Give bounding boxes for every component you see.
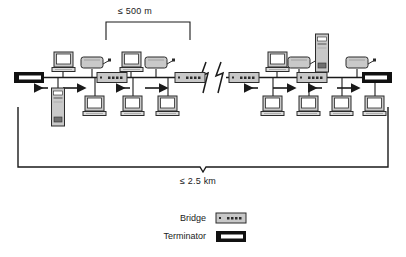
server-tower-right [316, 34, 329, 72]
bridge-4 [297, 73, 327, 83]
computer-top-3 [266, 52, 289, 72]
network-diagram: ≤ 500 m ≤ 2.5 km Bridge Terminator [0, 0, 406, 257]
computer-bottom-1 [83, 96, 106, 116]
server-tower-left [52, 88, 65, 126]
legend-terminator-icon [216, 231, 246, 242]
computer-bottom-7 [363, 96, 386, 116]
computer-bottom-5 [297, 96, 320, 116]
computer-bottom-2 [121, 96, 144, 116]
bridge-2 [175, 73, 205, 83]
total-length-bracket [18, 107, 388, 172]
bridge-3 [229, 73, 259, 83]
segment-length-label: ≤ 500 m [118, 6, 152, 16]
computer-top-1 [52, 52, 75, 72]
segment-length-bracket [106, 22, 190, 40]
computer-bottom-3 [156, 96, 179, 116]
bridge-1 [97, 73, 127, 83]
terminator-right [362, 72, 392, 83]
computer-bottom-6 [330, 96, 353, 116]
legend-bridge-icon [216, 213, 246, 223]
printer-3 [288, 57, 318, 68]
printer-4 [346, 57, 376, 68]
printer-2 [145, 57, 175, 68]
terminator-left [14, 72, 44, 83]
legend-label-bridge: Bridge [131, 213, 206, 223]
computer-top-2 [120, 52, 143, 72]
total-length-label: ≤ 2.5 km [180, 176, 216, 186]
legend-label-terminator: Terminator [131, 231, 206, 241]
computer-bottom-4 [261, 96, 284, 116]
printer-1 [81, 57, 111, 68]
